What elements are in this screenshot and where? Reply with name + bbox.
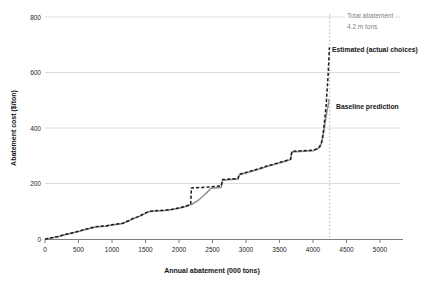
total-abatement-annotation: Total abatement 4.2 m tons <box>345 10 395 32</box>
y-axis-title: Abatement cost ($/ton) <box>10 90 17 166</box>
baseline-series-label: Baseline prediction <box>336 103 399 110</box>
svg-text:200: 200 <box>30 180 41 187</box>
horizontal-gridlines <box>45 17 400 184</box>
svg-text:1500: 1500 <box>138 246 153 253</box>
x-axis <box>45 240 403 244</box>
svg-text:4000: 4000 <box>306 246 321 253</box>
svg-text:400: 400 <box>30 125 41 132</box>
x-axis-title: Annual abatement (000 tons) <box>164 267 260 274</box>
svg-text:3000: 3000 <box>239 246 254 253</box>
svg-text:500: 500 <box>73 246 84 253</box>
svg-text:2000: 2000 <box>172 246 187 253</box>
data-series <box>45 48 329 240</box>
total-abatement-line2: 4.2 m tons <box>347 21 393 32</box>
svg-text:2500: 2500 <box>205 246 220 253</box>
svg-text:1000: 1000 <box>105 246 120 253</box>
svg-text:600: 600 <box>30 69 41 76</box>
svg-text:3500: 3500 <box>272 246 287 253</box>
svg-text:0: 0 <box>43 246 47 253</box>
svg-text:0: 0 <box>37 236 41 243</box>
chart-canvas: 0200400600800050010001500200025003000350… <box>0 0 428 287</box>
estimated-series-label: Estimated (actual choices) <box>332 46 418 53</box>
total-abatement-line1: Total abatement <box>347 10 393 21</box>
svg-text:4500: 4500 <box>339 246 354 253</box>
abatement-cost-chart: 0200400600800050010001500200025003000350… <box>0 0 428 287</box>
svg-text:5000: 5000 <box>373 246 388 253</box>
svg-text:800: 800 <box>30 14 41 21</box>
